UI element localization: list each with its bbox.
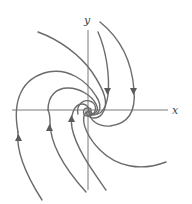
y-axis-label: y: [83, 14, 91, 27]
arrow-icon: [15, 134, 22, 141]
x-axis-label: x: [172, 104, 179, 117]
trajectory-6: [18, 132, 42, 200]
trajectory-bottom-right: [84, 111, 166, 167]
phase-portrait: x y: [0, 0, 192, 204]
trajectory-4: [16, 71, 99, 132]
arrow-icon: [104, 88, 111, 95]
arrow-icon: [46, 124, 53, 131]
arrow-icon: [130, 88, 137, 95]
arrow-icon: [68, 115, 75, 122]
